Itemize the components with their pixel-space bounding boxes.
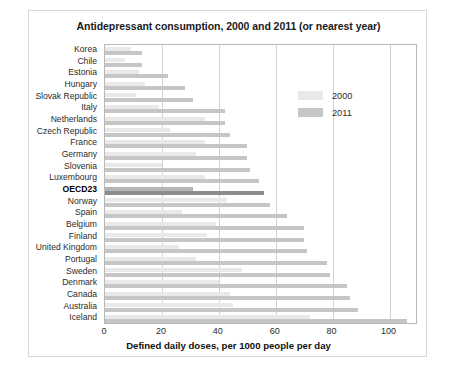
y-axis-label: Chile (0, 56, 97, 68)
chart-figure: Antidepressant consumption, 2000 and 201… (28, 10, 427, 357)
bar-2011 (105, 74, 168, 78)
y-axis-label: Portugal (0, 254, 97, 266)
bar-row (105, 162, 416, 174)
bar-row (105, 68, 416, 80)
y-axis-label: Finland (0, 231, 97, 243)
y-axis-label: Italy (0, 102, 97, 114)
y-axis-label: Korea (0, 44, 97, 56)
bar-row (105, 197, 416, 209)
y-axis-label: United Kingdom (0, 242, 97, 254)
legend-label-2011: 2011 (332, 108, 352, 118)
bar-2011 (105, 261, 327, 265)
y-axis-label: Slovak Republic (0, 91, 97, 103)
bar-2011 (105, 284, 347, 288)
plot-area: 2000 2011 (104, 44, 417, 324)
bar-row (105, 267, 416, 279)
bar-row (105, 278, 416, 290)
bar-row (105, 115, 416, 127)
bar-2011 (105, 63, 142, 67)
bar-2011 (105, 86, 185, 90)
bar-row (105, 80, 416, 92)
bar-row (105, 220, 416, 232)
bar-2011 (105, 203, 270, 207)
y-axis-label: Germany (0, 149, 97, 161)
y-axis-label: Australia (0, 301, 97, 313)
bar-row (105, 185, 416, 197)
bar-2011 (105, 168, 250, 172)
bar-row (105, 150, 416, 162)
bar-2011 (105, 249, 307, 253)
bar-2011 (105, 51, 142, 55)
bar-row (105, 255, 416, 267)
bar-row (105, 232, 416, 244)
bar-2011 (105, 121, 225, 125)
bar-2011 (105, 156, 247, 160)
bar-rows (105, 45, 416, 323)
y-axis-label: Spain (0, 207, 97, 219)
y-axis-label: France (0, 137, 97, 149)
chart-legend: 2000 2011 (298, 87, 352, 121)
x-axis-tick: 40 (213, 326, 223, 336)
y-axis-label: Denmark (0, 277, 97, 289)
y-axis-label: Canada (0, 289, 97, 301)
x-axis-tick: 100 (381, 326, 396, 336)
bar-row (105, 208, 416, 220)
bar-2011 (105, 179, 259, 183)
bar-2011 (105, 191, 264, 195)
bar-2011 (105, 308, 358, 312)
y-axis-label: Netherlands (0, 114, 97, 126)
x-axis-tick: 20 (156, 326, 166, 336)
y-axis-label: OECD23 (0, 184, 97, 196)
legend-item-2011: 2011 (298, 104, 352, 121)
y-axis-label: Belgium (0, 219, 97, 231)
bar-row (105, 57, 416, 69)
y-axis-category-labels: KoreaChileEstoniaHungarySlovak RepublicI… (29, 44, 101, 324)
bar-2011 (105, 296, 350, 300)
bar-row (105, 138, 416, 150)
bar-2011 (105, 98, 193, 102)
chart-title: Antidepressant consumption, 2000 and 201… (29, 20, 428, 32)
x-axis-tick: 80 (327, 326, 337, 336)
bar-row (105, 243, 416, 255)
bar-row (105, 45, 416, 57)
y-axis-label: Czech Republic (0, 126, 97, 138)
bar-row (105, 313, 416, 325)
legend-swatch-2011 (298, 108, 323, 117)
x-axis-tick-labels: 020406080100 (104, 326, 417, 340)
x-axis-tick: 0 (101, 326, 106, 336)
bar-row (105, 290, 416, 302)
legend-label-2000: 2000 (332, 91, 352, 101)
y-axis-label: Sweden (0, 266, 97, 278)
bar-2011 (105, 238, 304, 242)
bar-2011 (105, 133, 230, 137)
bar-2011 (105, 109, 225, 113)
bar-2011 (105, 273, 330, 277)
x-axis-title: Defined daily doses, per 1000 people per… (29, 340, 428, 351)
bar-row (105, 127, 416, 139)
bar-row (105, 173, 416, 185)
legend-swatch-2000 (298, 91, 323, 100)
bar-row (105, 92, 416, 104)
bar-2011 (105, 144, 247, 148)
y-axis-label: Slovenia (0, 161, 97, 173)
x-axis-tick: 60 (270, 326, 280, 336)
bar-row (105, 103, 416, 115)
bar-2011 (105, 319, 407, 323)
bar-2011 (105, 214, 287, 218)
y-axis-label: Estonia (0, 67, 97, 79)
y-axis-label: Norway (0, 196, 97, 208)
bar-row (105, 302, 416, 314)
legend-item-2000: 2000 (298, 87, 352, 104)
y-axis-label: Luxembourg (0, 172, 97, 184)
y-axis-label: Hungary (0, 79, 97, 91)
bar-2011 (105, 226, 304, 230)
y-axis-label: Iceland (0, 312, 97, 324)
